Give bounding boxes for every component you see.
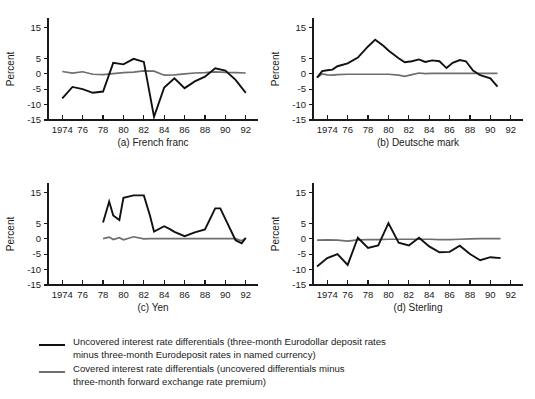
y-tick-label: -15 <box>27 279 41 290</box>
x-tick-label: 86 <box>444 289 455 300</box>
x-tick-label: 80 <box>118 289 129 300</box>
chart-panel-deutsche-mark: 1550-5-10-151974767880828486889092Percen… <box>265 0 532 165</box>
chart-svg-sterling: 1550-5-10-151974767880828486889092Percen… <box>265 165 532 330</box>
chart-panel-french-franc: 1550-5-10-151974767880828486889092Percen… <box>0 0 267 165</box>
chart-panel-yen: 1550-5-10-151974767880828486889092Percen… <box>0 165 267 330</box>
y-tick-label: 5 <box>36 218 41 229</box>
x-tick-label: 84 <box>424 289 435 300</box>
y-tick-label: -10 <box>292 264 306 275</box>
y-tick-label: -10 <box>27 264 41 275</box>
legend-entry-uncovered: Uncovered interest rate differentials (t… <box>39 336 469 361</box>
x-tick-label: 88 <box>465 124 476 135</box>
y-tick-label: -15 <box>292 114 306 125</box>
x-tick-label: 82 <box>139 289 150 300</box>
y-tick-label: 0 <box>36 68 41 79</box>
x-tick-label: 88 <box>200 124 211 135</box>
legend-covered-line2: three-month forward exchange rate premiu… <box>73 376 345 389</box>
chart-svg-french-franc: 1550-5-10-151974767880828486889092Percen… <box>0 0 267 165</box>
x-tick-label: 90 <box>485 124 496 135</box>
figure-legend: Uncovered interest rate differentials (t… <box>0 330 535 399</box>
y-tick-label: 15 <box>30 22 41 33</box>
y-tick-label: -5 <box>298 83 306 94</box>
uncovered-series-line-deutsche-mark <box>317 40 497 87</box>
legend-uncovered-line2: minus three-month Eurodeposit rates in n… <box>73 349 386 362</box>
chart-panel-grid: 1550-5-10-151974767880828486889092Percen… <box>0 0 535 330</box>
panel-title-yen: (c) Yen <box>137 302 168 313</box>
x-tick-label: 86 <box>444 124 455 135</box>
x-tick-label: 80 <box>118 124 129 135</box>
y-tick-label: -5 <box>33 83 41 94</box>
y-tick-label: 15 <box>295 187 306 198</box>
x-tick-label: 90 <box>220 289 231 300</box>
x-tick-label: 82 <box>404 124 415 135</box>
x-tick-label: 78 <box>363 289 374 300</box>
x-tick-label: 1974 <box>52 289 73 300</box>
interest-rate-differentials-figure: 1550-5-10-151974767880828486889092Percen… <box>0 0 535 399</box>
panel-title-french-franc: (a) French franc <box>117 137 188 148</box>
y-tick-label: 0 <box>301 233 306 244</box>
legend-covered-line1: Covered interest rate differentials (unc… <box>73 363 345 376</box>
covered-series-line-french-franc <box>62 71 246 75</box>
y-tick-label: 0 <box>36 233 41 244</box>
x-tick-label: 76 <box>342 124 353 135</box>
y-tick-label: -15 <box>292 279 306 290</box>
x-tick-label: 92 <box>240 124 251 135</box>
y-tick-label: 5 <box>301 218 306 229</box>
x-tick-label: 84 <box>424 124 435 135</box>
x-tick-label: 92 <box>240 289 251 300</box>
y-tick-label: -10 <box>292 99 306 110</box>
uncovered-line-swatch <box>39 340 65 350</box>
x-tick-label: 76 <box>342 289 353 300</box>
x-tick-label: 90 <box>485 289 496 300</box>
x-tick-label: 80 <box>383 124 394 135</box>
x-tick-label: 86 <box>179 124 190 135</box>
legend-uncovered-line1: Uncovered interest rate differentials (t… <box>73 336 386 349</box>
x-tick-label: 88 <box>200 289 211 300</box>
y-tick-label: -5 <box>33 248 41 259</box>
y-tick-label: 0 <box>301 68 306 79</box>
uncovered-series-line-sterling <box>317 223 500 266</box>
covered-series-line-sterling <box>317 239 500 241</box>
legend-entry-uncovered-text: Uncovered interest rate differentials (t… <box>73 336 386 361</box>
y-axis-label: Percent <box>270 52 281 87</box>
panel-title-deutsche-mark: (b) Deutsche mark <box>377 137 460 148</box>
chart-svg-yen: 1550-5-10-151974767880828486889092Percen… <box>0 165 267 330</box>
x-tick-label: 92 <box>505 289 516 300</box>
x-tick-label: 1974 <box>317 289 338 300</box>
uncovered-series-line-yen <box>103 195 246 243</box>
y-tick-label: 5 <box>301 53 306 64</box>
y-tick-label: 15 <box>295 22 306 33</box>
y-tick-label: -15 <box>27 114 41 125</box>
x-tick-label: 1974 <box>317 124 338 135</box>
x-tick-label: 78 <box>363 124 374 135</box>
x-tick-label: 84 <box>159 289 170 300</box>
x-tick-label: 82 <box>139 124 150 135</box>
x-tick-label: 86 <box>179 289 190 300</box>
x-tick-label: 78 <box>98 289 109 300</box>
x-tick-label: 80 <box>383 289 394 300</box>
y-tick-label: 15 <box>30 187 41 198</box>
x-tick-label: 1974 <box>52 124 73 135</box>
y-tick-label: 5 <box>36 53 41 64</box>
covered-series-line-deutsche-mark <box>317 73 497 77</box>
chart-panel-sterling: 1550-5-10-151974767880828486889092Percen… <box>265 165 532 330</box>
y-axis-label: Percent <box>5 52 16 87</box>
legend-entry-covered: Covered interest rate differentials (unc… <box>39 363 469 388</box>
chart-svg-deutsche-mark: 1550-5-10-151974767880828486889092Percen… <box>265 0 532 165</box>
panel-title-sterling: (d) Sterling <box>394 302 443 313</box>
y-tick-label: -5 <box>298 248 306 259</box>
x-tick-label: 84 <box>159 124 170 135</box>
x-tick-label: 76 <box>77 289 88 300</box>
covered-series-line-yen <box>103 237 246 241</box>
covered-line-swatch <box>39 367 65 377</box>
y-axis-label: Percent <box>270 217 281 252</box>
x-tick-label: 92 <box>505 124 516 135</box>
y-tick-label: -10 <box>27 99 41 110</box>
x-tick-label: 78 <box>98 124 109 135</box>
x-tick-label: 88 <box>465 289 476 300</box>
x-tick-label: 90 <box>220 124 231 135</box>
y-axis-label: Percent <box>5 217 16 252</box>
uncovered-series-line-french-franc <box>62 59 246 117</box>
x-tick-label: 76 <box>77 124 88 135</box>
legend-entry-covered-text: Covered interest rate differentials (unc… <box>73 363 345 388</box>
